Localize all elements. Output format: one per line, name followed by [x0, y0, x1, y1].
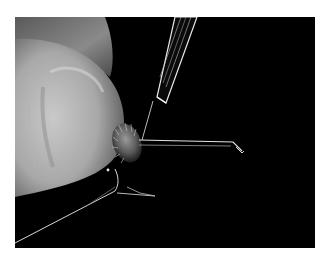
photo-frame	[15, 17, 315, 248]
glass-micropipette	[142, 17, 197, 140]
insect-leg-right	[139, 140, 244, 153]
photograph	[15, 17, 315, 248]
